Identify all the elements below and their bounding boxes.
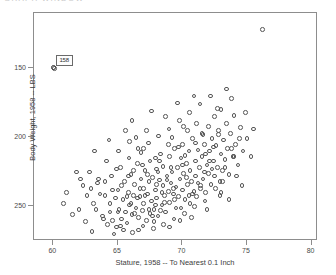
scatter-point[interactable] bbox=[213, 186, 218, 191]
scatter-point[interactable] bbox=[108, 201, 113, 206]
annotated-data-point[interactable] bbox=[51, 65, 56, 70]
scatter-point[interactable] bbox=[157, 159, 162, 164]
scatter-point[interactable] bbox=[167, 154, 172, 159]
scatter-point[interactable] bbox=[202, 142, 207, 147]
scatter-point[interactable] bbox=[179, 206, 184, 211]
scatter-point[interactable] bbox=[141, 201, 146, 206]
scatter-point[interactable] bbox=[141, 224, 146, 229]
scatter-point[interactable] bbox=[116, 210, 121, 215]
scatter-point[interactable] bbox=[208, 94, 213, 99]
scatter-point[interactable] bbox=[221, 138, 226, 143]
scatter-point[interactable] bbox=[127, 139, 132, 144]
scatter-point[interactable] bbox=[175, 165, 180, 170]
scatter-point[interactable] bbox=[148, 159, 153, 164]
scatter-point[interactable] bbox=[238, 125, 243, 130]
scatter-point[interactable] bbox=[161, 164, 166, 169]
scatter-point[interactable] bbox=[197, 165, 202, 170]
scatter-point[interactable] bbox=[126, 174, 131, 179]
scatter-point[interactable] bbox=[227, 172, 232, 177]
scatter-point[interactable] bbox=[125, 194, 130, 199]
scatter-point[interactable] bbox=[136, 228, 141, 233]
scatter-point[interactable] bbox=[110, 218, 115, 223]
scatter-point[interactable] bbox=[145, 172, 150, 177]
scatter-point[interactable] bbox=[78, 177, 83, 182]
scatter-point[interactable] bbox=[131, 168, 136, 173]
scatter-point[interactable] bbox=[160, 190, 165, 195]
scatter-point[interactable] bbox=[153, 203, 158, 208]
scatter-point[interactable] bbox=[134, 135, 139, 140]
scatter-point[interactable] bbox=[224, 87, 229, 92]
scatter-point[interactable] bbox=[210, 167, 215, 172]
scatter-point[interactable] bbox=[198, 186, 203, 191]
scatter-point[interactable] bbox=[91, 201, 96, 206]
scatter-point[interactable] bbox=[229, 146, 234, 151]
scatter-point[interactable] bbox=[189, 215, 194, 220]
scatter-point[interactable] bbox=[193, 141, 198, 146]
scatter-point[interactable] bbox=[201, 177, 206, 182]
scatter-point[interactable] bbox=[108, 210, 113, 215]
scatter-point[interactable] bbox=[220, 179, 225, 184]
scatter-point[interactable] bbox=[61, 201, 66, 206]
scatter-point[interactable] bbox=[243, 110, 248, 115]
scatter-point[interactable] bbox=[130, 118, 135, 123]
scatter-point[interactable] bbox=[219, 190, 224, 195]
scatter-point[interactable] bbox=[146, 141, 151, 146]
scatter-point[interactable] bbox=[167, 127, 172, 132]
scatter-point[interactable] bbox=[87, 170, 92, 175]
scatter-point[interactable] bbox=[212, 174, 217, 179]
scatter-point[interactable] bbox=[171, 186, 176, 191]
scatter-point[interactable] bbox=[161, 183, 166, 188]
scatter-point[interactable] bbox=[129, 201, 134, 206]
scatter-point[interactable] bbox=[205, 163, 210, 168]
scatter-point[interactable] bbox=[156, 214, 161, 219]
scatter-point[interactable] bbox=[156, 170, 161, 175]
scatter-point[interactable] bbox=[180, 163, 185, 168]
scatter-point[interactable] bbox=[227, 197, 232, 202]
scatter-point[interactable] bbox=[144, 218, 149, 223]
scatter-point[interactable] bbox=[167, 200, 172, 205]
scatter-point[interactable] bbox=[153, 188, 158, 193]
scatter-point[interactable] bbox=[103, 193, 108, 198]
scatter-point[interactable] bbox=[193, 159, 198, 164]
scatter-point[interactable] bbox=[143, 193, 148, 198]
scatter-point[interactable] bbox=[182, 211, 187, 216]
scatter-point[interactable] bbox=[223, 165, 228, 170]
scatter-point[interactable] bbox=[166, 142, 171, 147]
scatter-point[interactable] bbox=[181, 124, 186, 129]
scatter-point[interactable] bbox=[162, 200, 167, 205]
scatter-point[interactable] bbox=[245, 136, 250, 141]
scatter-point[interactable] bbox=[207, 159, 212, 164]
scatter-point[interactable] bbox=[113, 196, 118, 201]
scatter-point[interactable] bbox=[193, 174, 198, 179]
scatter-point[interactable] bbox=[209, 182, 214, 187]
scatter-point[interactable] bbox=[116, 149, 121, 154]
scatter-point[interactable] bbox=[147, 207, 152, 212]
scatter-point[interactable] bbox=[116, 188, 121, 193]
scatter-point[interactable] bbox=[192, 204, 197, 209]
scatter-point[interactable] bbox=[152, 207, 157, 212]
scatter-point[interactable] bbox=[212, 114, 217, 119]
scatter-point[interactable] bbox=[166, 189, 171, 194]
scatter-point[interactable] bbox=[196, 148, 201, 153]
scatter-point[interactable] bbox=[81, 183, 86, 188]
scatter-point[interactable] bbox=[114, 167, 119, 172]
scatter-point[interactable] bbox=[109, 174, 114, 179]
scatter-point[interactable] bbox=[215, 165, 220, 170]
scatter-point[interactable] bbox=[158, 208, 163, 213]
scatter-point[interactable] bbox=[110, 188, 115, 193]
scatter-point[interactable] bbox=[172, 197, 177, 202]
scatter-point[interactable] bbox=[236, 163, 241, 168]
scatter-point[interactable] bbox=[135, 161, 140, 166]
scatter-point[interactable] bbox=[177, 118, 182, 123]
scatter-point[interactable] bbox=[77, 207, 82, 212]
scatter-point[interactable] bbox=[107, 138, 112, 143]
scatter-point[interactable] bbox=[119, 183, 124, 188]
scatter-point[interactable] bbox=[260, 27, 265, 32]
scatter-point[interactable] bbox=[90, 229, 95, 234]
scatter-point[interactable] bbox=[141, 146, 146, 151]
scatter-point[interactable] bbox=[216, 132, 221, 137]
scatter-point[interactable] bbox=[228, 131, 233, 136]
scatter-point[interactable] bbox=[183, 153, 188, 158]
scatter-point[interactable] bbox=[229, 96, 234, 101]
scatter-point[interactable] bbox=[96, 177, 101, 182]
